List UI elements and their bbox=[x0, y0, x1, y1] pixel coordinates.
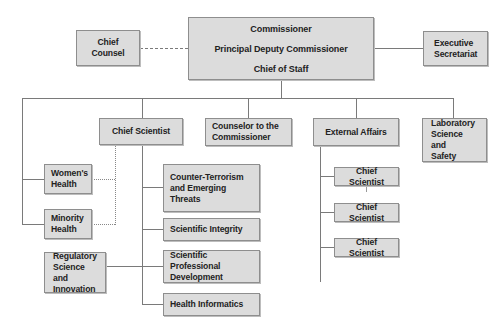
ea-child-1-connector bbox=[320, 176, 334, 177]
chief-scientist-label: Chief Scientist bbox=[112, 126, 170, 137]
minority-health-dotted-link bbox=[92, 224, 115, 225]
principal-deputy-commissioner-title: Principal Deputy Commissioner bbox=[214, 39, 347, 59]
health-informatics-connector bbox=[142, 304, 163, 305]
regulatory-science-label: Regulatory Science and Innovation bbox=[53, 251, 99, 295]
executive-secretariat-box[interactable]: Executive Secretariat bbox=[423, 31, 488, 66]
laboratory-science-label: Laboratory Science and Safety bbox=[431, 118, 480, 162]
sci-integrity-connector bbox=[142, 229, 163, 230]
scientific-professional-development-box[interactable]: Scientific Professional Development bbox=[163, 250, 260, 283]
counselor-label: Counselor to the Commissioner bbox=[212, 121, 279, 143]
external-affairs-trunk bbox=[320, 146, 321, 282]
ea-child-3-connector bbox=[320, 247, 334, 248]
ea-chief-scientist-box-1[interactable]: Chief Scientist bbox=[334, 167, 399, 186]
chief-scientist-box[interactable]: Chief Scientist bbox=[99, 118, 183, 145]
laboratory-drop bbox=[453, 98, 454, 118]
chief-scientist-drop bbox=[142, 98, 143, 118]
exec-secretariat-connector bbox=[374, 48, 423, 49]
minority-health-label: Minority Health bbox=[51, 213, 84, 235]
ea-chief-scientist-box-2[interactable]: Chief Scientist bbox=[334, 203, 399, 222]
external-affairs-drop bbox=[356, 98, 357, 118]
ea-child-2-connector bbox=[320, 212, 334, 213]
scientific-integrity-box[interactable]: Scientific Integrity bbox=[163, 218, 260, 241]
counter-terrorism-label: Counter-Terrorism and Emerging Threats bbox=[170, 172, 244, 205]
health-informatics-label: Health Informatics bbox=[170, 299, 243, 310]
top-stem-connector bbox=[281, 80, 282, 98]
chief-scientist-dotted-drop bbox=[115, 145, 116, 225]
chief-counsel-label: Chief Counsel bbox=[83, 37, 133, 59]
womens-health-connector bbox=[22, 179, 44, 180]
ea-chief-scientist-label-2: Chief Scientist bbox=[341, 202, 392, 224]
womens-health-box[interactable]: Women's Health bbox=[44, 164, 92, 194]
ea-chief-scientist-label-1: Chief Scientist bbox=[341, 166, 392, 188]
laboratory-science-box[interactable]: Laboratory Science and Safety bbox=[422, 118, 487, 162]
counselor-drop bbox=[248, 98, 249, 118]
ea-child-tick bbox=[366, 187, 367, 192]
commissioner-box[interactable]: Commissioner Principal Deputy Commission… bbox=[188, 17, 374, 80]
health-informatics-box[interactable]: Health Informatics bbox=[163, 293, 260, 316]
counselor-box[interactable]: Counselor to the Commissioner bbox=[205, 118, 292, 146]
chief-counsel-box[interactable]: Chief Counsel bbox=[76, 30, 140, 66]
regulatory-connector bbox=[106, 266, 163, 267]
ctet-connector bbox=[142, 187, 163, 188]
minority-health-box[interactable]: Minority Health bbox=[44, 209, 92, 239]
left-office-drop bbox=[22, 98, 23, 225]
ea-chief-scientist-label-3: Chief Scientist bbox=[341, 237, 392, 259]
external-affairs-label: External Affairs bbox=[325, 127, 387, 138]
womens-health-dotted-link bbox=[92, 179, 115, 180]
chief-counsel-dashed-connector bbox=[140, 48, 188, 49]
ea-chief-scientist-box-3[interactable]: Chief Scientist bbox=[334, 238, 399, 257]
level2-bus-connector bbox=[22, 98, 454, 99]
external-affairs-box[interactable]: External Affairs bbox=[313, 118, 399, 146]
chief-scientist-trunk bbox=[142, 145, 143, 305]
commissioner-title: Commissioner bbox=[250, 19, 311, 39]
womens-health-label: Women's Health bbox=[51, 168, 88, 190]
regulatory-science-box[interactable]: Regulatory Science and Innovation bbox=[44, 252, 106, 293]
counter-terrorism-box[interactable]: Counter-Terrorism and Emerging Threats bbox=[163, 164, 260, 212]
minority-health-connector bbox=[22, 224, 44, 225]
executive-secretariat-label: Executive Secretariat bbox=[434, 38, 477, 60]
scientific-integrity-label: Scientific Integrity bbox=[170, 224, 243, 235]
scientific-professional-development-label: Scientific Professional Development bbox=[170, 250, 253, 283]
chief-of-staff-title: Chief of Staff bbox=[254, 59, 309, 79]
